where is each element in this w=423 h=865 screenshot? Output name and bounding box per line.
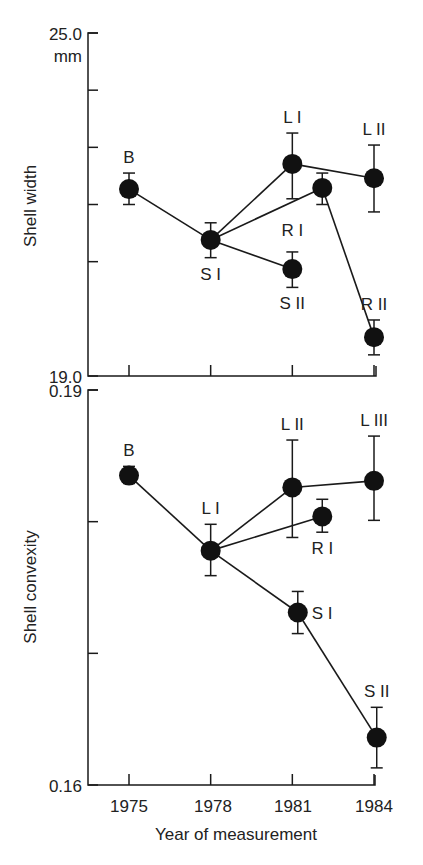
top-segment-SI-LI — [211, 164, 293, 240]
top-point-SII — [282, 259, 302, 279]
bottom-series: BL IL IIR IL IIIS IS II — [119, 411, 389, 768]
x-tick-label-1975: 1975 — [110, 797, 148, 816]
top-segment-LI-LII — [292, 164, 374, 178]
bottom-segment-LI-RI — [211, 516, 323, 550]
top-point-B — [119, 179, 139, 199]
top-point-RII — [364, 327, 384, 347]
bottom-y-ticks — [88, 390, 98, 785]
bottom-segment-SI-SII — [298, 613, 377, 738]
bottom-point-SII — [367, 728, 387, 748]
bottom-panel: 0.19 0.16 Shell convexity BL IL IIR IL I… — [21, 382, 393, 844]
top-panel: 25.0 mm 19.0 Shell width BS IL IL IIS II… — [21, 25, 387, 387]
bottom-segment-LI-LII — [211, 487, 293, 550]
bottom-point-label-B: B — [123, 441, 134, 460]
top-point-label-RII: R II — [361, 295, 387, 314]
top-annotation: R I — [281, 221, 303, 240]
top-point-RI — [312, 178, 332, 198]
figure: 25.0 mm 19.0 Shell width BS IL IL IIS II… — [0, 0, 423, 865]
top-y-axis-title: Shell width — [21, 165, 40, 247]
bottom-ymax-label: 0.19 — [49, 382, 82, 401]
bottom-point-SI — [288, 603, 308, 623]
bottom-segment-LI-SI — [211, 551, 298, 613]
bottom-point-LII — [282, 477, 302, 497]
bottom-x-ticks — [129, 774, 374, 785]
bottom-point-LI — [201, 541, 221, 561]
bottom-y-axis-title: Shell convexity — [21, 530, 40, 644]
bottom-point-B — [119, 466, 139, 486]
top-point-label-SII: S II — [280, 294, 306, 313]
top-point-label-LII: L II — [363, 120, 386, 139]
top-segment-RI-RII — [322, 188, 374, 337]
bottom-point-label-LIII: L III — [360, 411, 388, 430]
top-x-ticks — [129, 365, 374, 376]
bottom-segment-LII-LIII — [292, 481, 374, 488]
top-y-ticks — [88, 33, 98, 376]
bottom-segment-B-LI — [129, 476, 211, 551]
top-point-label-B: B — [123, 148, 134, 167]
bottom-point-label-LI: L I — [202, 499, 220, 518]
top-segment-SI-SII — [211, 240, 293, 269]
top-series: BS IL IL IIS IIR IIR I — [119, 108, 387, 355]
bottom-ymin-label: 0.16 — [49, 777, 82, 796]
bottom-point-label-LII: L II — [281, 415, 304, 434]
chart-canvas: 25.0 mm 19.0 Shell width BS IL IL IIS II… — [0, 0, 423, 865]
x-tick-label-1978: 1978 — [194, 797, 232, 816]
top-segment-SI-RI — [211, 188, 323, 240]
bottom-point-label-SI: S I — [312, 604, 333, 623]
bottom-point-label-SII: S II — [364, 682, 390, 701]
top-ymax-label: 25.0 — [49, 25, 82, 44]
x-tick-label-1984: 1984 — [355, 797, 393, 816]
bottom-point-LIII — [364, 471, 384, 491]
top-point-LI — [282, 154, 302, 174]
x-tick-label-1981: 1981 — [274, 797, 312, 816]
top-point-SI — [201, 230, 221, 250]
top-yunit-label: mm — [54, 47, 82, 66]
top-point-LII — [364, 168, 384, 188]
top-point-label-SI: S I — [200, 265, 221, 284]
top-segment-B-SI — [129, 189, 211, 240]
x-axis-title: Year of measurement — [155, 825, 317, 844]
bottom-point-label-RI: R I — [311, 539, 333, 558]
bottom-point-RI — [312, 506, 332, 526]
top-point-label-LI: L I — [283, 108, 301, 127]
